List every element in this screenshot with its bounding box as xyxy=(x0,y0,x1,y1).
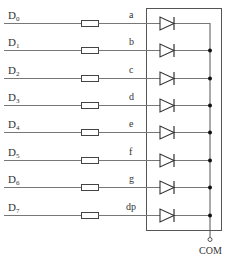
segment-label: f xyxy=(129,147,132,157)
input-label-name: D xyxy=(8,91,16,103)
input-label: D5 xyxy=(8,147,19,160)
diode-icon xyxy=(160,72,174,85)
diode-icon xyxy=(160,17,174,30)
segment-label: e xyxy=(129,119,133,129)
resistor-icon xyxy=(82,103,99,109)
input-row xyxy=(4,44,212,57)
junction-dot-icon xyxy=(208,49,212,53)
input-row xyxy=(4,126,212,139)
segment-label: d xyxy=(129,92,134,102)
input-label: D2 xyxy=(8,65,19,78)
input-label-subscript: 4 xyxy=(16,124,20,132)
diode-icon xyxy=(160,209,174,222)
com-label: COM xyxy=(199,246,222,256)
input-row xyxy=(4,72,212,85)
junction-dot-icon xyxy=(208,77,212,81)
diode-icon xyxy=(160,126,174,139)
input-row xyxy=(4,154,212,167)
input-label-subscript: 6 xyxy=(16,179,20,187)
resistor-icon xyxy=(82,76,99,82)
input-label-subscript: 7 xyxy=(16,207,20,215)
input-label: D6 xyxy=(8,174,19,187)
diode-icon xyxy=(160,181,174,194)
input-label-subscript: 5 xyxy=(16,152,20,160)
input-label-subscript: 3 xyxy=(16,97,20,105)
input-label: D7 xyxy=(8,202,19,215)
junction-dot-icon xyxy=(208,131,212,135)
input-label: D1 xyxy=(8,37,19,50)
led-display-circuit xyxy=(0,0,230,263)
input-label-subscript: 1 xyxy=(16,42,20,50)
segment-label: a xyxy=(129,10,133,20)
input-label: D3 xyxy=(8,92,19,105)
segment-label: b xyxy=(129,37,134,47)
input-row xyxy=(4,99,212,112)
resistor-icon xyxy=(82,48,99,54)
diode-icon xyxy=(160,154,174,167)
input-label-name: D xyxy=(8,201,16,213)
resistor-icon xyxy=(82,185,99,191)
input-label: D4 xyxy=(8,119,19,132)
segment-label: dp xyxy=(126,202,136,212)
segment-label: g xyxy=(129,174,134,184)
junction-dot-icon xyxy=(208,214,212,218)
resistor-icon xyxy=(82,213,99,219)
input-label-name: D xyxy=(8,118,16,130)
resistor-icon xyxy=(82,21,99,27)
input-label-subscript: 2 xyxy=(16,70,20,78)
resistor-icon xyxy=(82,130,99,136)
input-row xyxy=(4,17,210,30)
diode-icon xyxy=(160,99,174,112)
junction-dot-icon xyxy=(208,104,212,108)
com-terminal-icon xyxy=(208,238,212,242)
input-label-name: D xyxy=(8,36,16,48)
diode-icon xyxy=(160,44,174,57)
input-label-name: D xyxy=(8,146,16,158)
input-label: D0 xyxy=(8,10,19,23)
input-label-name: D xyxy=(8,173,16,185)
input-label-name: D xyxy=(8,9,16,21)
input-row xyxy=(4,181,212,194)
input-row xyxy=(4,209,212,222)
junction-dot-icon xyxy=(208,159,212,163)
resistor-icon xyxy=(82,158,99,164)
junction-dot-icon xyxy=(208,186,212,190)
input-label-subscript: 0 xyxy=(16,15,20,23)
segment-label: c xyxy=(129,65,133,75)
input-label-name: D xyxy=(8,64,16,76)
